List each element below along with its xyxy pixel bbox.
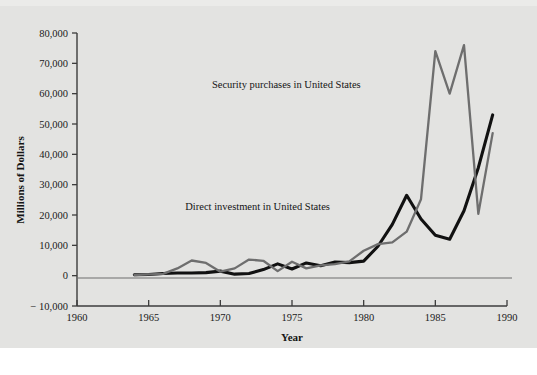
x-axis-tick-label: 1975 — [282, 312, 303, 323]
x-axis-tick-label: 1970 — [210, 312, 231, 323]
y-axis-tick-label: 70,000 — [39, 58, 68, 69]
x-axis-tick-label: 1990 — [497, 312, 518, 323]
x-axis-tick-label: 1965 — [138, 312, 159, 323]
x-axis-tick-label: 1960 — [67, 312, 88, 323]
y-axis-tick-label: 30,000 — [39, 179, 68, 190]
y-axis-tick-label: 50,000 — [39, 119, 68, 130]
series-label-direct-investment: Direct investment in United States — [185, 201, 330, 212]
x-axis-title: Year — [281, 331, 303, 343]
x-axis-tick-label: 1980 — [353, 312, 374, 323]
y-axis-tick-label: 20,000 — [39, 210, 68, 221]
series-label-security-purchases: Security purchases in United States — [212, 79, 361, 90]
y-axis-tick-label: 40,000 — [39, 149, 68, 160]
y-axis-tick-label: 80,000 — [39, 28, 68, 39]
x-axis-tick-group: 1960196519701975198019851990 — [67, 300, 518, 323]
y-axis-tick-label: 60,000 — [39, 88, 68, 99]
y-axis-tick-label: 10,000 — [39, 240, 68, 251]
line-chart: − 10,000010,00020,00030,00040,00050,0006… — [0, 0, 537, 348]
y-axis-tick-label: − 10,000 — [31, 301, 68, 312]
series-line-0 — [134, 115, 492, 275]
y-axis-tick-group: − 10,000010,00020,00030,00040,00050,0006… — [31, 28, 77, 312]
y-axis-tick-label: 0 — [63, 270, 68, 281]
figure-panel: − 10,000010,00020,00030,00040,00050,0006… — [0, 0, 537, 348]
x-axis-tick-label: 1985 — [425, 312, 446, 323]
chart-plot-area: − 10,000010,00020,00030,00040,00050,0006… — [0, 0, 537, 348]
y-axis-title: Millions of Dollars — [14, 136, 26, 224]
